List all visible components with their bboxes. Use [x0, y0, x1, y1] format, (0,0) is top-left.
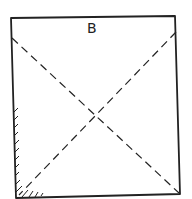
square-outline	[11, 16, 180, 198]
diagonal-left-to-bottom-right	[12, 38, 179, 193]
hatching	[14, 108, 43, 197]
diagonal-right-to-bottom-left	[19, 32, 176, 195]
diagram-label: B	[87, 20, 97, 36]
